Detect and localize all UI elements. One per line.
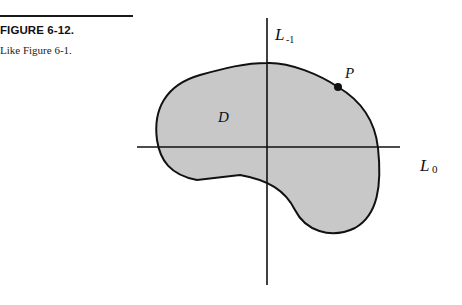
diagram-canvas: P D L -1 L 0 (0, 0, 462, 305)
region-d-label: D (217, 109, 229, 125)
point-p-label: P (344, 65, 354, 81)
vertical-axis-subscript: -1 (286, 34, 294, 45)
horizontal-axis-subscript: 0 (432, 163, 438, 175)
point-p (334, 83, 342, 91)
vertical-axis-label: L (274, 25, 284, 44)
region-d (156, 63, 379, 233)
horizontal-axis-label: L (419, 156, 429, 175)
